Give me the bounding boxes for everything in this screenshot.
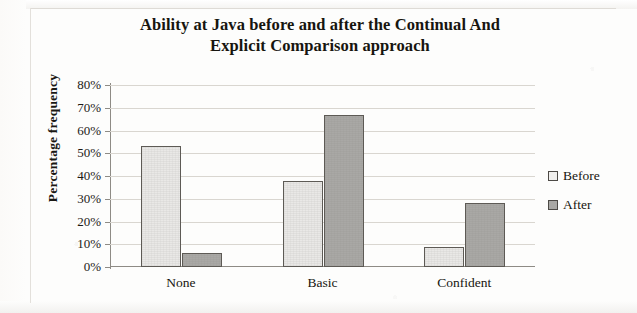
bar-group [283,85,363,267]
plot-area: 80%70%60%50%40%30%20%10%0% NoneBasicConf… [110,85,535,267]
legend-label: After [563,197,591,213]
y-axis-tick-label: 30% [77,191,101,207]
legend-label: Before [563,168,600,184]
scan-edge-left [0,0,26,313]
bar-basic-before[interactable] [283,181,323,267]
legend-swatch-after [548,200,558,210]
y-axis-tick-label: 60% [77,123,101,139]
y-axis-tickmark [105,267,110,268]
bar-basic-after[interactable] [324,115,364,267]
chart-frame-top-border [30,8,616,9]
y-axis-tickmark [105,199,110,200]
y-axis-tickmark [105,222,110,223]
bar-group [141,85,221,267]
y-axis-tick-label: 50% [77,145,101,161]
bar-texture [183,254,221,266]
legend-swatch-before [548,171,558,181]
y-axis-tick-label: 10% [77,236,101,252]
bar-confident-before[interactable] [424,247,464,267]
chart-frame-left-border [30,8,31,303]
bar-texture [325,116,363,266]
y-axis-tickmark [105,131,110,132]
y-axis-tickmark [105,108,110,109]
bar-texture [425,248,463,266]
y-axis-tick-label: 70% [77,100,101,116]
bar-group [424,85,504,267]
y-axis-tickmark [105,176,110,177]
chart-title-line-1: Ability at Java before and after the Con… [60,14,580,35]
y-axis-tickmark [105,153,110,154]
bar-chart-figure: Ability at Java before and after the Con… [0,0,637,313]
legend-item-before[interactable]: Before [548,168,633,184]
y-axis-tick-label: 40% [77,168,101,184]
x-axis-label-basic: Basic [253,275,393,291]
chart-title: Ability at Java before and after the Con… [60,14,580,56]
chart-title-line-2: Explicit Comparison approach [60,35,580,56]
scan-edge-bottom [0,301,637,313]
y-axis-tick-label: 20% [77,214,101,230]
y-axis-tickmark [105,244,110,245]
y-axis-title: Percentage frequency [45,43,61,233]
legend-item-after[interactable]: After [548,197,633,213]
x-axis-label-none: None [111,275,251,291]
chart-legend: BeforeAfter [548,168,633,226]
y-axis-tickmark [105,85,110,86]
bar-none-after[interactable] [182,253,222,267]
bar-none-before[interactable] [141,146,181,267]
bar-texture [466,204,504,266]
bar-texture [284,182,322,266]
bar-confident-after[interactable] [465,203,505,267]
y-axis-tick-label: 80% [77,77,101,93]
y-axis-tick-label: 0% [84,259,101,275]
bar-texture [142,147,180,266]
x-axis-label-confident: Confident [394,275,534,291]
